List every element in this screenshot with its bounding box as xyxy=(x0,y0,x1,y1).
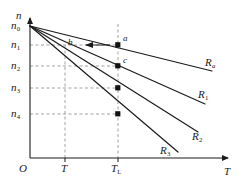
point-label-c: c xyxy=(123,56,127,65)
x-axis-title: T xyxy=(224,166,230,177)
y-tick-n3-sub: 3 xyxy=(17,87,20,94)
point-label-b: b xyxy=(68,38,73,47)
curve-label-R2-sub: 2 xyxy=(199,136,202,143)
y-tick-n0-sub: 0 xyxy=(17,25,20,32)
line-R2 xyxy=(30,26,198,132)
curve-label-R1-sub: 1 xyxy=(205,94,208,101)
curve-label-R3-base: R xyxy=(160,144,167,156)
origin-label: O xyxy=(19,163,27,174)
curve-label-Ra-base: R xyxy=(205,56,212,68)
curve-label-R3-sub: 3 xyxy=(167,150,170,157)
marker-point-4 xyxy=(115,111,120,116)
marker-point-c xyxy=(115,63,120,68)
y-tick-n1-sub: 1 xyxy=(17,44,20,51)
curve-label-R1: R1 xyxy=(198,89,208,100)
y-tick-n4-sub: 4 xyxy=(17,113,20,120)
y-tick-n1: n1 xyxy=(11,39,20,50)
curve-label-R3: R3 xyxy=(160,145,170,156)
y-tick-n2-base: n xyxy=(11,59,17,71)
curve-label-R2: R2 xyxy=(192,131,202,142)
speed-torque-characteristic-figure: n T O n0 n1 n2 n3 n4 T TL Ra R1 R2 R3 a … xyxy=(0,0,243,188)
y-tick-n2: n2 xyxy=(11,60,20,71)
y-tick-n2-sub: 2 xyxy=(17,65,20,72)
characteristic-lines xyxy=(30,26,212,152)
marker-point-3 xyxy=(115,85,120,90)
y-tick-n1-base: n xyxy=(11,38,17,50)
marker-point-a xyxy=(115,42,120,47)
y-tick-n0: n0 xyxy=(11,20,20,31)
horizontal-guide-lines xyxy=(30,45,118,114)
y-tick-n4: n4 xyxy=(11,108,20,119)
y-tick-n0-base: n xyxy=(11,19,17,31)
x-tick-TL-sub: L xyxy=(117,168,121,175)
curve-label-R2-base: R xyxy=(192,130,199,142)
y-tick-n4-base: n xyxy=(11,107,17,119)
y-tick-n3-base: n xyxy=(11,81,17,93)
curve-label-Ra: Ra xyxy=(205,57,215,68)
curve-label-Ra-sub: a xyxy=(212,62,215,69)
x-tick-TL: TL xyxy=(111,163,121,174)
curve-label-R1-base: R xyxy=(198,88,205,100)
x-tick-T: T xyxy=(61,163,67,174)
y-tick-n3: n3 xyxy=(11,82,20,93)
point-label-a: a xyxy=(123,34,128,43)
